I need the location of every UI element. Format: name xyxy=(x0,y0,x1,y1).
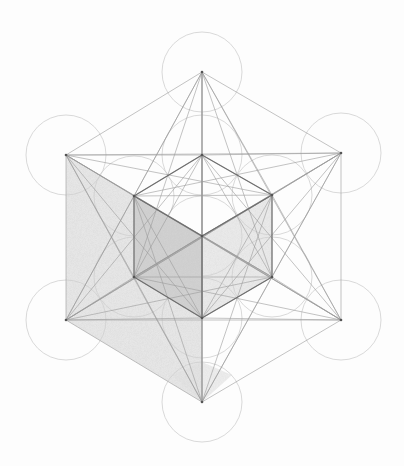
vertex-dot xyxy=(65,154,68,157)
vertex-dot xyxy=(340,152,343,155)
connecting-line xyxy=(202,320,341,402)
connecting-line xyxy=(66,72,202,155)
vertex-dot xyxy=(133,276,136,279)
vertex-dot xyxy=(201,154,204,157)
metatrons-cube-drawing xyxy=(0,0,404,466)
geometry-svg xyxy=(0,0,404,466)
vertex-dot xyxy=(133,195,136,198)
vertex-dot xyxy=(271,194,274,197)
vertex-dot xyxy=(201,317,204,320)
vertex-dot xyxy=(201,71,204,74)
cube-edge xyxy=(202,155,272,195)
vertex-dot xyxy=(340,319,343,322)
cube-edge xyxy=(134,155,202,196)
vertex-dot xyxy=(201,401,204,404)
vertex-dot xyxy=(201,235,204,238)
vertex-dot xyxy=(65,319,68,322)
connecting-line xyxy=(202,72,341,153)
vertex-dot xyxy=(271,276,274,279)
